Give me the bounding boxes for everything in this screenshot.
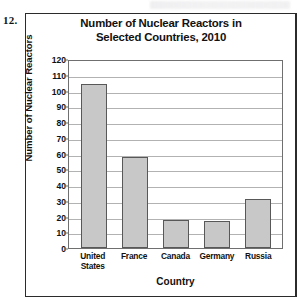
x-axis-tick-label: Germany — [197, 252, 237, 271]
x-axis-tick-label: Russia — [238, 252, 278, 271]
x-axis-tick-label: France — [114, 252, 154, 271]
y-axis-title: Number of Nuclear Reactors — [23, 42, 34, 162]
scan-artifact — [150, 1, 290, 9]
bar-russia — [245, 199, 271, 248]
bar-united-states — [81, 84, 107, 248]
bar-canada — [163, 220, 189, 248]
bar-france — [122, 157, 148, 248]
y-axis-tick-labels: 1201101009080706050403020100 — [40, 60, 66, 249]
x-axis-tick-label-line: Russia — [238, 252, 278, 262]
problem-number: 12. — [3, 14, 17, 26]
x-axis-tick-label: UnitedStates — [73, 252, 113, 271]
bar-germany — [204, 221, 230, 248]
x-axis-title: Country — [68, 276, 283, 287]
chart-title-line-2: Selected Countries, 2010 — [32, 31, 290, 45]
x-axis-tick-label-line: Canada — [155, 252, 195, 262]
figure-border-right — [295, 13, 297, 297]
x-axis-tick-labels: UnitedStatesFranceCanadaGermanyRussia — [68, 252, 283, 271]
x-axis-tick-label-line: States — [73, 262, 113, 272]
x-axis-tick-label-line: Germany — [197, 252, 237, 262]
chart-title: Number of Nuclear Reactors in Selected C… — [32, 17, 290, 44]
chart-title-line-1: Number of Nuclear Reactors in — [32, 17, 290, 31]
bar-series — [69, 61, 282, 248]
x-axis-tick-label-line: France — [114, 252, 154, 262]
x-axis-tick-label: Canada — [155, 252, 195, 271]
plot-area — [68, 60, 283, 249]
